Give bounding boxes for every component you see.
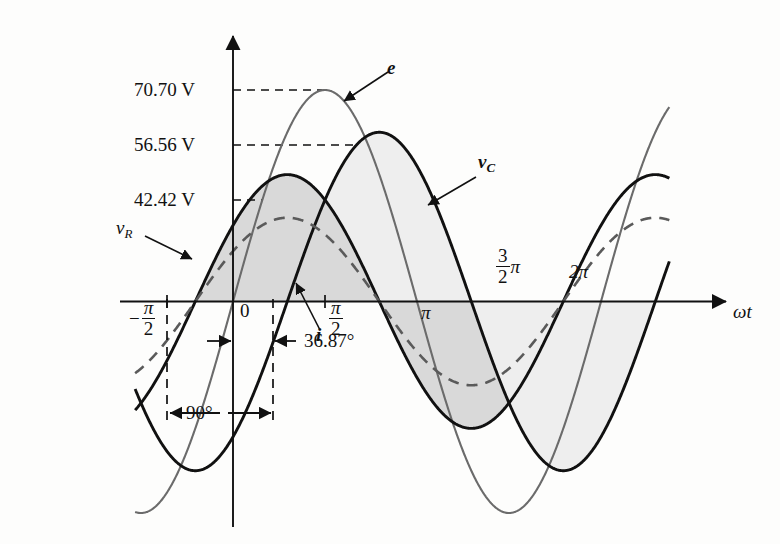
x-tick-label-pi: π [421, 303, 431, 322]
x-tick-label-minus-pi-over-2: − π 2 [129, 298, 155, 339]
curve-label-vc: vC [478, 152, 495, 174]
frac-num: π [142, 298, 156, 318]
figure-canvas: 70.70 V 56.56 V 42.42 V − π 2 0 π 2 π 3 … [0, 0, 780, 544]
x-tick-label-three-pi-over-2: 3 2 π [496, 246, 520, 287]
y-tick-label-42-42: 42.42 V [134, 190, 195, 209]
minus-sign: − [129, 309, 142, 328]
angle-label-3687: 36.87° [304, 331, 354, 350]
curve-label-e: e [387, 58, 395, 77]
frac-num: π [329, 298, 343, 318]
callout-vr [145, 236, 192, 259]
x-tick-label-zero: 0 [240, 301, 250, 320]
y-tick-label-70-70: 70.70 V [134, 80, 195, 99]
callout-e [344, 72, 388, 101]
y-tick-label-56-56: 56.56 V [134, 135, 195, 154]
x-tick-label-two-pi: 2π [569, 262, 588, 281]
x-axis-title: ωt [733, 302, 752, 321]
curve-label-e-text: e [387, 57, 395, 78]
frac-suffix: π [510, 257, 521, 276]
angle-label-90: 90° [186, 403, 213, 422]
frac-den: 2 [496, 266, 510, 287]
construction-lines [167, 299, 273, 425]
curve-label-vr-sub: R [124, 226, 132, 241]
frac-num: 3 [496, 246, 510, 266]
callout-vc [428, 177, 476, 205]
frac-den: 2 [142, 318, 156, 339]
curve-label-vc-sub: C [486, 160, 495, 175]
waveform-svg [0, 0, 780, 544]
curve-label-vr: vR [116, 218, 132, 240]
